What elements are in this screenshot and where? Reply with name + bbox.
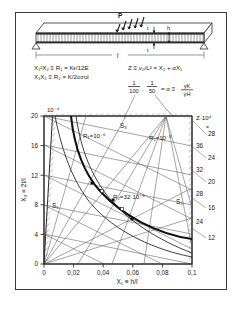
alpha-num1: 1 [132, 80, 135, 86]
y-axis-title: X₂ ≡ 2t/l [20, 178, 27, 202]
y-tick-label-20: 20 [31, 112, 39, 119]
x-tick-label-006: 0,06 [127, 269, 140, 276]
alpha-ratio-den: γH [184, 91, 191, 97]
x-tick-label-008: 0,08 [156, 269, 169, 276]
right-inner-label-32: 32 [196, 166, 204, 173]
figure-canvas: P t t h l X₁²X₂ ≡ R₁ = Kғ/12E X₁X₂ ≡ R₂ … [16, 13, 226, 289]
formula-alpha-line: 1 100 , 1 50 = α ≡ γK γH [128, 80, 193, 98]
boundary-S3 [44, 114, 192, 117]
y-tick-label-16: 16 [31, 142, 39, 149]
right-scale-outer: 28 24 20 16 12 [208, 130, 216, 241]
support-left [32, 43, 40, 49]
support-right [200, 43, 208, 49]
annotation-S1-bottom: S₁ [52, 202, 58, 209]
beam-thickness-bottom-label: t [147, 47, 149, 53]
figure-caption [10, 296, 234, 314]
annotation-top-left-exp: 10⁻⁴ [47, 107, 60, 113]
x-tick-label-0: 0 [42, 269, 46, 276]
formula-left-line2: X₁X₂ ≡ R₂ = K/2σzul [34, 73, 89, 80]
y-axis: 20 16 12 8 4 0 [31, 112, 44, 267]
right-scale-inner: 36 32 28 24 [196, 142, 204, 225]
right-inner-label-36: 36 [196, 142, 204, 149]
right-outer-label-12: 12 [208, 234, 216, 241]
annotation-R1-left: R₁=10⁻⁶ [83, 132, 106, 139]
right-outer-label-20: 20 [208, 178, 216, 185]
alpha-comma: , [142, 86, 144, 92]
formula-left-line1: X₁²X₂ ≡ R₁ = Kғ/12E [34, 64, 89, 71]
formula-right-line1: Z ≡ v₀/L² = X₂ + αX₁ [128, 64, 182, 71]
alpha-den1: 100 [129, 88, 138, 94]
right-outer-label-24: 24 [208, 154, 216, 161]
nomogram-figure: P t t h l X₁²X₂ ≡ R₁ = Kғ/12E X₁X₂ ≡ R₂ … [15, 12, 227, 290]
boundary-S1 [44, 116, 56, 264]
right-scale-title: Z·10⁴ [196, 114, 212, 121]
y-tick-label-4: 4 [34, 231, 38, 238]
annotation-S3: S₃ [120, 122, 127, 129]
z-lines-family-b [44, 116, 192, 291]
right-inner-label-24: 24 [196, 218, 204, 225]
x-tick-label-002: 0,02 [67, 269, 80, 276]
x-axis: 0 0,02 0,04 0,06 0,08 0,1 [42, 264, 197, 276]
x-tick-label-01: 0,1 [188, 269, 197, 276]
annotation-S2: S₂ [176, 198, 183, 205]
y-tick-label-8: 8 [34, 201, 38, 208]
beam-load-label: P [118, 13, 123, 19]
right-outer-label-28: 28 [208, 130, 216, 137]
right-outer-label-16: 16 [208, 204, 216, 211]
annotation-R2: R₂=32·10⁻⁶ [113, 193, 145, 200]
alpha-den2: 50 [149, 88, 155, 94]
x-tick-label-004: 0,04 [97, 269, 110, 276]
y-tick-label-0: 0 [34, 260, 38, 267]
x-axis-title: X₁ ≡ h/l [116, 278, 138, 285]
alpha-equals: = α ≡ [161, 85, 176, 92]
alpha-num2: 1 [150, 80, 153, 86]
plot-area: 20 16 12 8 4 0 [20, 107, 216, 291]
figure-svg: P t t h l X₁²X₂ ≡ R₁ = Kғ/12E X₁X₂ ≡ R₂ … [16, 13, 228, 291]
y-tick-label-12: 12 [31, 172, 39, 179]
right-inner-label-28: 28 [196, 190, 204, 197]
right-scale-subtitle: = [206, 124, 209, 130]
beam-diagram: P t t h l [32, 13, 212, 60]
alpha-ratio-num: γK [184, 83, 191, 89]
beam-height-label: h [167, 25, 170, 31]
annotation-R1-right: R₁=10⁻⁵ [149, 134, 172, 141]
